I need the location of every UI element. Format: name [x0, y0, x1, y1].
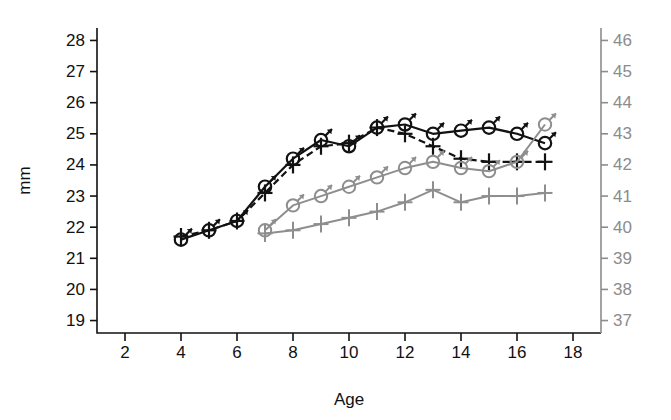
y2-tick-label: 40	[613, 218, 632, 237]
marker-cross-dark	[538, 153, 553, 170]
y2-tick-label: 42	[613, 155, 632, 174]
x-tick-label: 12	[396, 343, 415, 362]
marker-cross-gray	[482, 188, 497, 205]
marker-cross-gray	[370, 203, 385, 220]
y2-tick-label: 39	[613, 249, 632, 268]
x-tick-label: 14	[452, 343, 471, 362]
marker-cross-gray	[426, 181, 441, 198]
y-tick-label: 26	[66, 93, 85, 112]
y2-tick-label: 43	[613, 124, 632, 143]
x-tick-label: 18	[564, 343, 583, 362]
x-tick-label: 6	[232, 343, 241, 362]
marker-cross-gray	[286, 222, 301, 239]
marker-male-dark	[315, 129, 332, 146]
x-tick-label: 8	[288, 343, 297, 362]
marker-cross-gray	[538, 184, 553, 201]
marker-cross-gray	[314, 216, 329, 233]
y-tick-label: 23	[66, 187, 85, 206]
y-tick-label: 20	[66, 280, 85, 299]
x-tick-label: 4	[176, 343, 185, 362]
y2-tick-label: 41	[613, 187, 632, 206]
y-tick-label: 21	[66, 249, 85, 268]
y2-tick-label: 37	[613, 311, 632, 330]
marker-male-gray	[427, 151, 444, 168]
marker-male-dark	[371, 117, 388, 134]
chart-container: 1920212223242526272837383940414243444546…	[0, 0, 671, 420]
x-tick-label: 10	[340, 343, 359, 362]
marker-male-dark	[455, 120, 472, 137]
x-axis-title: Age	[334, 390, 364, 409]
y-tick-label: 25	[66, 124, 85, 143]
y-tick-label: 27	[66, 62, 85, 81]
y2-tick-label: 45	[613, 62, 632, 81]
marker-male-dark	[427, 123, 444, 140]
y-tick-label: 22	[66, 218, 85, 237]
marker-cross-dark	[426, 138, 441, 155]
marker-male-dark	[539, 132, 556, 149]
marker-cross-gray	[454, 194, 469, 211]
y2-tick-label: 38	[613, 280, 632, 299]
y-tick-label: 19	[66, 311, 85, 330]
y2-tick-label: 44	[613, 93, 632, 112]
y-tick-label: 28	[66, 31, 85, 50]
y-axis-title: mm	[15, 166, 34, 194]
marker-cross-gray	[398, 194, 413, 211]
x-tick-label: 2	[120, 343, 129, 362]
y2-tick-label: 46	[613, 31, 632, 50]
marker-male-dark	[483, 117, 500, 134]
male-circle	[539, 118, 551, 130]
y-tick-label: 24	[66, 155, 85, 174]
marker-cross-gray	[510, 188, 525, 205]
x-tick-label: 16	[508, 343, 527, 362]
growth-chart: 1920212223242526272837383940414243444546…	[0, 0, 671, 420]
marker-cross-gray	[342, 209, 357, 226]
